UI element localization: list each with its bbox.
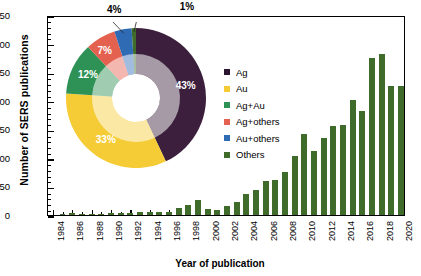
x-axis-tick-label: 2010 [307, 221, 317, 265]
y-axis-minor-tick [48, 199, 51, 200]
x-axis-tick-label: 2018 [385, 221, 395, 265]
legend-item-label: Ag+Au [236, 101, 265, 111]
x-axis-tick-label: 2006 [269, 221, 279, 265]
bar [398, 86, 404, 215]
y-axis-major-tick [48, 102, 54, 103]
x-axis-tick-label: 1988 [95, 221, 105, 265]
y-axis-minor-tick [48, 91, 51, 92]
legend-swatch-icon [224, 135, 230, 141]
y-axis-major-tick [48, 74, 54, 75]
y-axis-minor-tick [48, 194, 51, 195]
legend-item[interactable]: Others [224, 147, 280, 164]
bar [388, 86, 394, 215]
y-axis-minor-tick [48, 22, 51, 23]
bar [166, 212, 172, 215]
y-axis-tick-label: 50 [0, 181, 10, 192]
bar [253, 190, 259, 215]
bar [311, 151, 317, 215]
y-axis-tick-label: 100 [0, 153, 10, 164]
bar [292, 156, 298, 215]
x-axis-tick-label: 2002 [230, 221, 240, 265]
bar [156, 212, 162, 215]
y-axis-minor-tick [48, 142, 51, 143]
pie-percent-label: 1% [180, 1, 194, 12]
bar [69, 213, 75, 215]
y-axis-minor-tick [48, 165, 51, 166]
x-axis-tick-label: 1984 [56, 221, 66, 265]
x-axis-major-tick [53, 210, 54, 215]
donut-chart-inset: 43%33%12%7%4%1% [60, 22, 212, 174]
y-axis-tick-label: 250 [0, 67, 10, 78]
legend-item[interactable]: Ag [224, 64, 280, 81]
bar [243, 194, 249, 215]
bar [118, 213, 124, 215]
bar [98, 214, 104, 215]
y-axis-major-tick [48, 188, 54, 189]
y-axis-title: Number of SERS publications [18, 20, 30, 200]
bar [214, 210, 220, 215]
y-axis-major-tick [48, 159, 54, 160]
y-axis-minor-tick [48, 119, 51, 120]
bar [330, 126, 336, 215]
y-axis-major-tick [48, 216, 54, 217]
legend-item[interactable]: Au+others [224, 130, 280, 147]
bar [185, 205, 191, 215]
bar [340, 125, 346, 215]
y-axis-major-tick [48, 131, 54, 132]
y-axis-minor-tick [48, 79, 51, 80]
legend-item[interactable]: Ag+others [224, 114, 280, 131]
bar [176, 208, 182, 215]
legend: AgAuAg+AuAg+othersAu+othersOthers [224, 64, 280, 163]
bar [137, 212, 143, 215]
legend-swatch-icon [224, 102, 230, 108]
x-axis-tick-label: 1986 [75, 221, 85, 265]
legend-item-label: Ag [236, 68, 248, 78]
y-axis-minor-tick [48, 177, 51, 178]
x-axis-tick-label: 1990 [114, 221, 124, 265]
y-axis-minor-tick [48, 171, 51, 172]
legend-item[interactable]: Au [224, 81, 280, 98]
y-axis-major-tick [48, 45, 54, 46]
y-axis-minor-tick [48, 68, 51, 69]
pie-percent-label: 33% [96, 134, 116, 145]
y-axis-minor-tick [48, 62, 51, 63]
y-axis-major-tick [48, 16, 54, 17]
y-axis-minor-tick [48, 97, 51, 98]
y-axis-tick-label: 200 [0, 96, 10, 107]
y-axis-minor-tick [48, 57, 51, 58]
x-axis-tick-label: 1992 [133, 221, 143, 265]
legend-swatch-icon [224, 86, 230, 92]
pie-percent-label: 12% [78, 69, 98, 80]
y-axis-tick-label: 350 [0, 10, 10, 21]
bar [60, 214, 66, 215]
x-axis-tick-label: 2014 [346, 221, 356, 265]
legend-item[interactable]: Ag+Au [224, 97, 280, 114]
legend-swatch-icon [224, 152, 230, 158]
legend-item-label: Au+others [236, 134, 280, 144]
legend-item-label: Ag+others [236, 117, 280, 127]
y-axis-minor-tick [48, 39, 51, 40]
bar [108, 213, 114, 215]
pie-percent-label: 4% [107, 4, 121, 15]
y-axis-tick-label: 150 [0, 124, 10, 135]
pie-percent-label: 7% [98, 45, 112, 56]
legend-item-label: Au [236, 84, 248, 94]
y-axis-minor-tick [48, 114, 51, 115]
legend-swatch-icon [224, 69, 230, 75]
bar [359, 111, 365, 215]
x-axis-tick-label: 2004 [249, 221, 259, 265]
bar [195, 200, 201, 215]
x-axis-tick-label: 2008 [288, 221, 298, 265]
y-axis-minor-tick [48, 154, 51, 155]
x-axis-tick-label: 2020 [404, 221, 414, 265]
bar [234, 202, 240, 215]
x-axis-tick-label: 1996 [172, 221, 182, 265]
bar [379, 54, 385, 215]
x-axis-tick-label: 1994 [153, 221, 163, 265]
x-axis-tick-label: 2000 [211, 221, 221, 265]
legend-item-label: Others [236, 150, 265, 160]
pie-percent-label: 43% [176, 80, 196, 91]
y-axis-tick-label: 0 [0, 210, 10, 221]
bar [205, 209, 211, 215]
y-axis-minor-tick [48, 211, 51, 212]
